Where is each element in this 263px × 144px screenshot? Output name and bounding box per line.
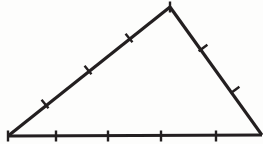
figure-background — [0, 0, 263, 144]
base-edge — [8, 135, 262, 136]
figure-root — [0, 0, 263, 144]
triangle-diagram — [0, 0, 263, 144]
